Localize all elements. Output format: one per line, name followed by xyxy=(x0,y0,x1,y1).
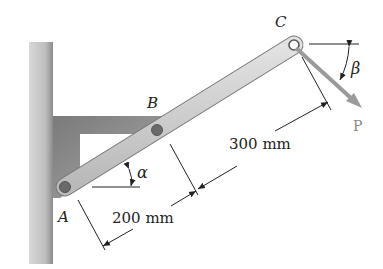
dimension-bc: 300 mm xyxy=(229,135,291,153)
label-p: P xyxy=(353,118,362,134)
label-b: B xyxy=(146,94,158,112)
label-a: A xyxy=(56,208,69,226)
force-p-arrow xyxy=(296,48,362,108)
label-beta: β xyxy=(350,59,360,78)
mechanics-diagram: A B C P α β 200 mm 300 mm xyxy=(0,0,383,269)
label-alpha: α xyxy=(137,163,148,182)
dimension-ab: 200 mm xyxy=(112,209,174,227)
pin-a xyxy=(60,182,71,193)
pin-b xyxy=(152,125,163,136)
wall xyxy=(29,42,53,264)
label-c: C xyxy=(275,13,287,31)
